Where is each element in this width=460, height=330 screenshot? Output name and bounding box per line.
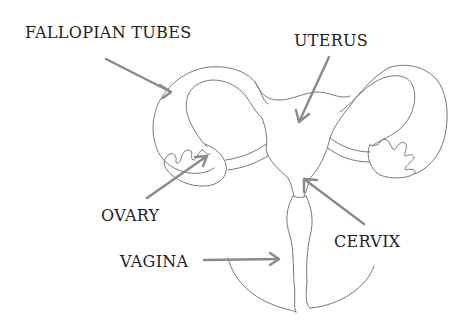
label-fallopian-tubes: FALLOPIAN TUBES (25, 25, 191, 41)
left-ovarian-ligament (226, 144, 266, 160)
vagina-outline (287, 196, 312, 312)
diagram-drawing (0, 0, 460, 330)
cervix-arrow (304, 179, 364, 224)
uterus-arrow (299, 57, 329, 122)
vagina-arrow (204, 259, 279, 260)
uterus-outline (255, 82, 350, 196)
label-cervix: CERVIX (334, 234, 400, 250)
right-ovary (368, 139, 415, 178)
label-vagina: VAGINA (120, 254, 188, 270)
left-fallopian-tube-inner (186, 80, 262, 147)
right-ovarian-ligament (330, 138, 370, 152)
pelvic-curve (228, 258, 374, 312)
label-ovary: OVARY (101, 208, 159, 224)
reproductive-system-diagram: FALLOPIAN TUBES UTERUS OVARY VAGINA CERV… (0, 0, 460, 330)
ovary-arrow (147, 156, 207, 198)
right-fallopian-tube-outer (350, 65, 447, 174)
right-fallopian-tube-inner (340, 76, 415, 146)
label-uterus: UTERUS (294, 33, 368, 49)
left-fallopian-tube-outer (153, 67, 268, 174)
